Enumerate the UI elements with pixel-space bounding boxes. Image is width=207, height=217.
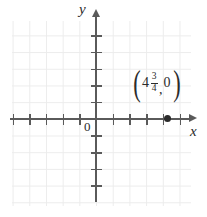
y-tick-positive-5	[91, 35, 102, 37]
close-parenthesis: )	[173, 69, 180, 97]
x-tick-positive-2	[129, 114, 131, 125]
y-tick-positive-4	[91, 52, 102, 54]
y-tick-positive-3	[91, 69, 102, 71]
x-tick-positive-1	[113, 114, 115, 125]
fraction-numerator: 3	[151, 72, 158, 82]
y-tick-negative-2	[91, 152, 102, 154]
y-axis-label: y	[79, 2, 86, 17]
y-tick-negative-3	[91, 169, 102, 171]
x-tick-negative-5	[13, 114, 15, 125]
coordinate-comma: ,	[159, 83, 163, 97]
y-tick-negative-1	[91, 135, 102, 137]
whole-number-part: 4	[142, 76, 149, 90]
x-tick-positive-3	[146, 114, 148, 125]
x-axis-label: x	[190, 124, 197, 139]
fraction: 3 4	[151, 72, 158, 93]
coordinate-plane-figure: x y 0 ( 4 3 4 , 0 )	[0, 0, 207, 217]
fraction-denominator: 4	[151, 84, 158, 94]
y-tick-negative-4	[91, 185, 102, 187]
x-tick-positive-5	[180, 114, 182, 125]
y-axis	[95, 16, 97, 202]
x-tick-negative-4	[29, 114, 31, 125]
open-parenthesis: (	[133, 69, 140, 97]
point-coordinate-annotation: ( 4 3 4 , 0 )	[131, 69, 183, 97]
x-tick-negative-1	[79, 114, 81, 125]
y-coordinate-value: 0	[164, 76, 171, 90]
x-tick-negative-2	[63, 114, 65, 125]
y-tick-positive-1	[91, 102, 102, 104]
y-axis-arrowhead-icon	[92, 9, 100, 17]
origin-label: 0	[84, 120, 91, 133]
y-tick-positive-2	[91, 85, 102, 87]
x-axis-arrowhead-icon	[189, 114, 197, 122]
x-tick-negative-3	[46, 114, 48, 125]
